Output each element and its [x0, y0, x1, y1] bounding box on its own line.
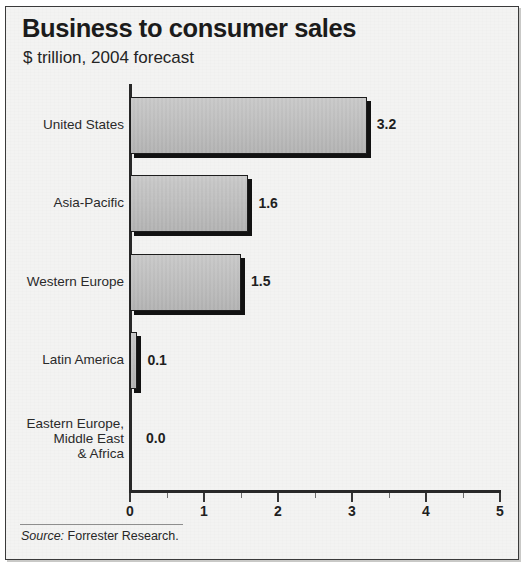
x-tick-major	[499, 493, 501, 502]
category-label: Asia-Pacific	[53, 195, 124, 210]
x-tick-major	[351, 493, 353, 502]
category-label: Western Europe	[27, 274, 124, 289]
x-tick-label: 0	[126, 503, 134, 519]
category-label: Eastern Europe, Middle East & Africa	[26, 416, 124, 461]
x-tick-minor	[389, 493, 390, 498]
x-tick-minor	[315, 493, 316, 498]
plot-area: 012345 United StatesAsia-PacificWestern …	[0, 0, 527, 584]
category-label: United States	[43, 117, 124, 132]
source-label: Source:	[21, 529, 64, 543]
source-value: Forrester Research.	[64, 529, 179, 543]
x-tick-label: 2	[274, 503, 282, 519]
x-tick-minor	[463, 493, 464, 498]
x-tick-minor	[167, 493, 168, 498]
x-tick-minor	[241, 493, 242, 498]
source-note: Source: Forrester Research.	[21, 529, 179, 543]
chart-figure: Business to consumer sales $ trillion, 2…	[0, 0, 527, 584]
bar-value-label: 1.6	[258, 195, 277, 211]
x-tick-label: 1	[200, 503, 208, 519]
bar-value-label: 3.2	[377, 116, 396, 132]
x-tick-major	[203, 493, 205, 502]
x-tick-label: 4	[422, 503, 430, 519]
x-tick-major	[129, 493, 131, 502]
bar-value-label: 0.0	[146, 430, 165, 446]
bar	[130, 175, 248, 232]
bar	[130, 332, 137, 389]
source-divider	[20, 524, 183, 525]
bar-value-label: 1.5	[251, 273, 270, 289]
category-label: Latin America	[42, 352, 124, 367]
bar	[130, 254, 241, 311]
x-tick-major	[425, 493, 427, 502]
x-tick-label: 3	[348, 503, 356, 519]
bar-value-label: 0.1	[147, 352, 166, 368]
x-tick-label: 5	[496, 503, 504, 519]
bar	[130, 97, 367, 154]
x-tick-major	[277, 493, 279, 502]
